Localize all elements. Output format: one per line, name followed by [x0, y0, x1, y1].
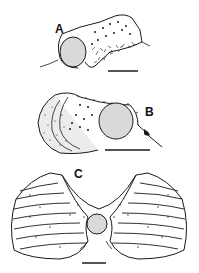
- panel-label-c: C: [74, 167, 83, 181]
- panel-a-drawing: [0, 0, 199, 85]
- panel-c: C: [0, 165, 199, 273]
- panel-label-b: B: [145, 105, 154, 119]
- panel-b-drawing: [0, 85, 199, 170]
- panel-b: B: [0, 85, 199, 170]
- panel-label-a: A: [55, 22, 64, 36]
- panel-c-drawing: [0, 165, 199, 273]
- panel-a: A: [0, 0, 199, 85]
